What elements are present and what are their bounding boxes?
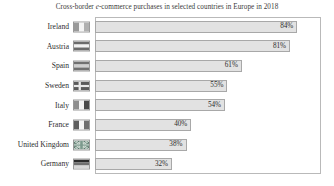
bar-track: 32%: [95, 158, 172, 170]
bar-row: Ireland84%: [0, 17, 334, 37]
bar-row: Spain61%: [0, 56, 334, 76]
bar-italy[interactable]: 54%: [95, 99, 225, 111]
bar-track: 84%: [95, 21, 297, 33]
bar-value-label: 54%: [208, 102, 224, 109]
flag-ireland-icon: [73, 21, 90, 32]
flag-sweden-icon: [73, 80, 90, 91]
category-label-sweden: Sweden: [0, 82, 69, 90]
category-label-germany: Germany: [0, 160, 69, 168]
category-label-ireland: Ireland: [0, 23, 69, 31]
category-label-austria: Austria: [0, 43, 69, 51]
category-label-france: France: [0, 121, 69, 129]
category-label-united-kingdom: United Kingdom: [0, 141, 69, 149]
bar-france[interactable]: 40%: [95, 119, 191, 131]
category-label-italy: Italy: [0, 102, 69, 110]
chart-title: Cross-border e-commerce purchases in sel…: [0, 3, 334, 11]
bar-value-label: 55%: [210, 82, 226, 89]
bar-track: 55%: [95, 80, 227, 92]
flag-austria-icon: [73, 41, 90, 52]
bar-track: 38%: [95, 139, 187, 151]
flag-italy-icon: [73, 100, 90, 111]
bar-track: 81%: [95, 40, 290, 52]
bar-spain[interactable]: 61%: [95, 60, 242, 72]
bar-track: 54%: [95, 99, 225, 111]
bar-chart: Cross-border e-commerce purchases in sel…: [0, 0, 334, 186]
bar-value-label: 32%: [155, 161, 171, 168]
flag-united-kingdom-icon: [73, 139, 90, 150]
chart-title-prefix: Cross-border: [56, 3, 96, 11]
bar-value-label: 84%: [280, 23, 296, 30]
bar-value-label: 40%: [174, 121, 190, 128]
bar-austria[interactable]: 81%: [95, 40, 290, 52]
bar-ireland[interactable]: 84%: [95, 21, 297, 33]
flag-spain-icon: [73, 61, 90, 72]
bar-value-label: 61%: [225, 62, 241, 69]
chart-title-suffix: -commerce purchases in selected countrie…: [99, 3, 278, 11]
bar-track: 61%: [95, 60, 242, 72]
bar-row: France40%: [0, 115, 334, 135]
category-label-spain: Spain: [0, 62, 69, 70]
bar-value-label: 38%: [169, 141, 185, 148]
bar-row: Austria81%: [0, 37, 334, 57]
flag-germany-icon: [73, 159, 90, 170]
bar-row: Germany32%: [0, 154, 334, 174]
bar-row: Italy54%: [0, 96, 334, 116]
bar-row: Sweden55%: [0, 76, 334, 96]
bar-row: United Kingdom38%: [0, 135, 334, 155]
flag-france-icon: [73, 119, 90, 130]
bar-track: 40%: [95, 119, 191, 131]
bar-germany[interactable]: 32%: [95, 158, 172, 170]
bar-rows: Ireland84%Austria81%Spain61%Sweden55%Ita…: [0, 17, 334, 174]
bar-united-kingdom[interactable]: 38%: [95, 139, 187, 151]
bar-sweden[interactable]: 55%: [95, 80, 227, 92]
bar-value-label: 81%: [273, 43, 289, 50]
